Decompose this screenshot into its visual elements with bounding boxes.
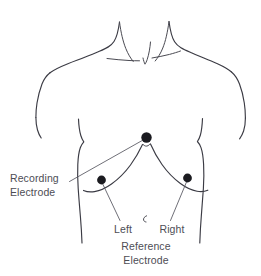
recording-electrode-label-line1: Recording	[10, 172, 59, 184]
right-electrode-label: Right	[159, 223, 184, 235]
left-forearm-outline	[36, 118, 41, 139]
reference-electrode-label-line2: Electrode	[123, 254, 168, 266]
left-neck-inner-line	[120, 22, 134, 62]
right-clavicle-line	[152, 51, 181, 58]
recording-electrode-dot	[141, 132, 151, 142]
left-electrode-leader-line	[103, 184, 121, 221]
left-neck-shoulder-outline	[50, 22, 120, 73]
suprasternal-notch-v	[143, 42, 151, 64]
recording-electrode-label-line2: Electrode	[10, 186, 55, 198]
left-upper-arm-outline	[36, 73, 50, 118]
right-upper-arm-outline	[232, 72, 246, 118]
right-reference-electrode-dot	[183, 174, 192, 183]
navel-mark	[144, 216, 147, 222]
left-electrode-label: Left	[114, 223, 132, 235]
left-clavicle-line	[107, 59, 140, 61]
right-torso-flank-outline	[197, 119, 203, 244]
right-pectoral-contour	[151, 144, 208, 192]
sternum-mark	[143, 144, 150, 146]
right-electrode-leader-line	[171, 182, 187, 221]
anatomical-electrode-placement-figure: Recording Electrode Left Right Reference…	[0, 0, 261, 276]
reference-electrode-label-line1: Reference	[121, 240, 170, 252]
left-reference-electrode-dot	[97, 176, 106, 185]
left-torso-flank-outline	[78, 119, 84, 243]
right-forearm-outline	[240, 118, 246, 139]
torso-diagram-svg: Recording Electrode Left Right Reference…	[0, 0, 261, 276]
right-neck-shoulder-outline	[169, 22, 232, 73]
